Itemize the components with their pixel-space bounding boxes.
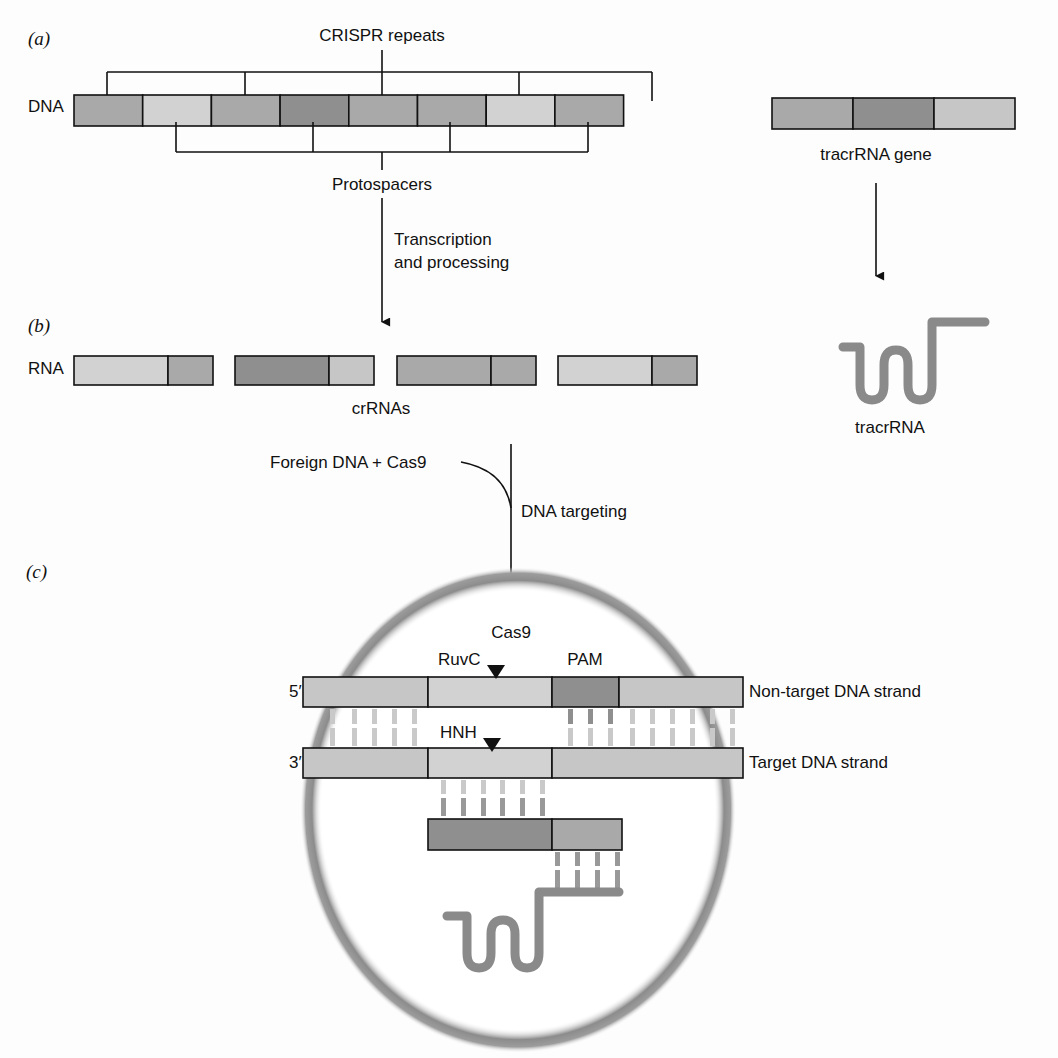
- five-prime-label: 5′: [289, 682, 302, 701]
- pam-pair-tick: [568, 709, 573, 724]
- protospacers-bracket: [176, 122, 588, 170]
- guide-pair-tick: [520, 798, 525, 816]
- crrna-tracr-pair-tick: [575, 852, 580, 866]
- transcription-label-line1: Transcription: [394, 230, 492, 249]
- base-pair-tick: [412, 728, 417, 746]
- target-segment: [552, 748, 743, 778]
- non-target-strand-label: Non-target DNA strand: [749, 682, 921, 701]
- crrna-tracr-pair-tick: [595, 852, 600, 866]
- base-pair-tick: [330, 709, 335, 724]
- crrna-repeat: [652, 356, 697, 385]
- guide-pair-tick: [441, 798, 446, 816]
- base-pair-tick: [372, 709, 377, 724]
- crrna-repeat: [329, 356, 374, 385]
- guide-pair-tick: [481, 780, 486, 794]
- guide-pair-tick: [500, 798, 505, 816]
- base-pair-tick: [588, 728, 593, 746]
- dna-label: DNA: [28, 97, 65, 116]
- transcription-label-line2: and processing: [394, 253, 509, 272]
- crrna-tracr-pair-tick: [575, 870, 580, 888]
- base-pair-tick: [690, 709, 695, 724]
- pam-pair-tick: [608, 709, 613, 724]
- foreign-dna-cas9-label: Foreign DNA + Cas9: [270, 453, 426, 472]
- base-pair-tick: [650, 728, 655, 746]
- crrna-tracr-pair-tick: [615, 870, 620, 888]
- non-target-segment: [303, 677, 428, 707]
- crrna-tracr-pair-tick: [555, 870, 560, 888]
- dna-segment: [555, 95, 624, 126]
- dna-segment: [74, 95, 143, 126]
- tracrrna-gene-segment: [772, 98, 853, 129]
- crispr-repeats-label: CRISPR repeats: [319, 26, 445, 45]
- guide-pair-tick: [540, 798, 545, 816]
- crispr-cas9-diagram: (a) CRISPR repeats DNA Protospacers trac…: [0, 0, 1058, 1058]
- base-pair-tick: [352, 709, 357, 724]
- cas9-label: Cas9: [491, 623, 531, 642]
- dna-segment: [280, 95, 349, 126]
- crrna-spacer: [235, 356, 329, 385]
- three-prime-label: 3′: [289, 753, 302, 772]
- tracrrna-gene-segment: [934, 98, 1015, 129]
- crispr-dna-array: [74, 95, 624, 126]
- tracrrna-gene-segment: [853, 98, 934, 129]
- bound-crrna-spacer: [428, 819, 552, 850]
- target-segment: [428, 748, 552, 778]
- guide-pair-tick: [520, 780, 525, 794]
- crrna-spacer: [397, 356, 491, 385]
- guide-pair-tick: [461, 780, 466, 794]
- base-pair-tick: [650, 709, 655, 724]
- base-pair-tick: [630, 728, 635, 746]
- diagram-canvas: (a) CRISPR repeats DNA Protospacers trac…: [0, 0, 1058, 1058]
- panel-label-c: (c): [26, 561, 47, 583]
- hnh-label: HNH: [440, 723, 477, 742]
- base-pair-tick: [330, 728, 335, 746]
- guide-pair-tick: [461, 798, 466, 816]
- panel-label-b: (b): [28, 315, 50, 337]
- crrna-tracr-pair-tick: [615, 852, 620, 866]
- base-pair-tick: [730, 709, 735, 724]
- panel-label-a: (a): [28, 28, 50, 50]
- pam-segment: [552, 677, 619, 707]
- dna-segment: [486, 95, 555, 126]
- crrna-tracr-pair-tick: [555, 852, 560, 866]
- guide-pair-tick: [441, 780, 446, 794]
- crrna-spacer: [558, 356, 652, 385]
- base-pair-tick: [690, 728, 695, 746]
- dna-segment: [211, 95, 280, 126]
- crrnas-label: crRNAs: [352, 399, 411, 418]
- tracrrna-gene: [772, 98, 1015, 129]
- tracrrna-label: tracrRNA: [855, 418, 926, 437]
- dna-segment: [349, 95, 418, 126]
- foreign-dna-joining-curve: [461, 462, 511, 508]
- base-pair-tick: [392, 728, 397, 746]
- bound-crrna-repeat: [552, 819, 622, 850]
- base-pair-tick: [670, 709, 675, 724]
- base-pair-tick: [412, 709, 417, 724]
- target-strand-label: Target DNA strand: [749, 753, 888, 772]
- base-pair-tick: [608, 728, 613, 746]
- base-pair-tick: [710, 709, 715, 724]
- dna-segment: [418, 95, 487, 126]
- dna-segment: [143, 95, 212, 126]
- base-pair-tick: [392, 709, 397, 724]
- non-target-segment: [428, 677, 552, 707]
- crrna-repeat: [168, 356, 213, 385]
- base-pair-tick: [630, 709, 635, 724]
- base-pair-tick: [568, 728, 573, 746]
- pam-pair-tick: [588, 709, 593, 724]
- target-segment: [303, 748, 428, 778]
- crispr-repeats-bracket: [107, 50, 652, 101]
- guide-pair-tick: [500, 780, 505, 794]
- crrna-spacer: [74, 356, 168, 385]
- non-target-segment: [619, 677, 743, 707]
- base-pair-tick: [372, 728, 377, 746]
- tracrrna-hairpin-icon: [843, 322, 985, 400]
- base-pair-tick: [730, 728, 735, 746]
- ruvc-label: RuvC: [438, 650, 481, 669]
- guide-pair-tick: [540, 780, 545, 794]
- crrna-repeat: [491, 356, 536, 385]
- crrna-tracr-pair-tick: [595, 870, 600, 888]
- base-pair-tick: [352, 728, 357, 746]
- pam-label: PAM: [567, 650, 603, 669]
- base-pair-tick: [670, 728, 675, 746]
